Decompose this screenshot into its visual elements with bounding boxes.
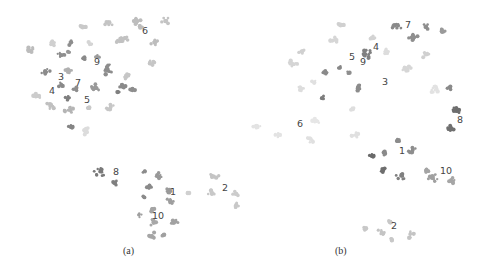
cluster-blob: [423, 23, 430, 31]
cluster-label: 3: [382, 76, 388, 87]
scatter-plot-b: 12345678910: [0, 0, 486, 272]
cluster-blob: [427, 173, 439, 183]
cluster-blob: [337, 65, 342, 70]
cluster-blob: [310, 79, 316, 85]
cluster-blob: [297, 48, 305, 54]
cluster-blob: [382, 150, 388, 157]
cluster-blob: [274, 132, 282, 138]
cluster-blob: [395, 138, 401, 143]
cluster-blob: [407, 33, 419, 42]
cluster-label: 1: [399, 145, 405, 156]
cluster-blob: [251, 124, 261, 130]
cluster-blob: [402, 64, 413, 72]
cluster-blob: [362, 226, 368, 232]
cluster-blob: [447, 176, 455, 185]
cluster-label: 9: [360, 56, 366, 67]
cluster-blob: [350, 131, 361, 138]
cluster-blob: [389, 237, 394, 243]
cluster-blob: [391, 23, 403, 30]
cluster-label: 10: [440, 165, 452, 176]
cluster-blob: [383, 47, 390, 55]
cluster-blob: [407, 146, 417, 155]
cluster-blob: [380, 166, 387, 174]
cluster-blob: [421, 51, 430, 59]
cluster-blob: [321, 69, 328, 76]
cluster-label: 6: [297, 118, 303, 129]
cluster-blob: [430, 85, 440, 95]
caption-b: (b): [335, 245, 347, 256]
cluster-blob: [377, 229, 386, 236]
cluster-blob: [349, 106, 355, 111]
cluster-blob: [298, 85, 305, 92]
cluster-blob: [369, 34, 377, 40]
cluster-label: 5: [349, 51, 355, 62]
cluster-label: 2: [391, 220, 397, 231]
cluster-label: 7: [405, 19, 411, 30]
cluster-blob: [446, 84, 453, 91]
cluster-blob: [356, 83, 362, 92]
cluster-blob: [337, 22, 346, 27]
cluster-blob: [395, 172, 406, 181]
cluster-blob: [346, 71, 351, 75]
cluster-blob: [288, 59, 299, 68]
cluster-blob: [306, 136, 315, 144]
cluster-blob: [310, 117, 320, 124]
cluster-blob: [424, 168, 430, 174]
cluster-blob: [320, 95, 325, 101]
cluster-blob: [440, 28, 447, 34]
cluster-blob: [452, 106, 461, 114]
cluster-label: 8: [457, 114, 463, 125]
panel-b: 12345678910 (b): [0, 0, 486, 272]
cluster-label: 4: [373, 41, 379, 52]
cluster-blob: [446, 124, 455, 132]
cluster-blob: [368, 153, 376, 159]
cluster-blob: [407, 230, 416, 240]
cluster-blob: [328, 36, 338, 44]
